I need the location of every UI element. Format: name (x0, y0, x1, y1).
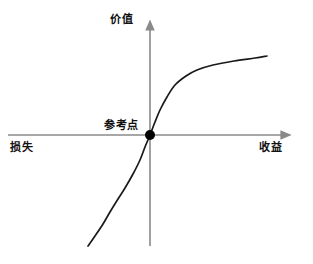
value-function-figure: 价值 损失 收益 参考点 (0, 0, 313, 264)
reference-point-marker-group (145, 130, 155, 140)
x-axis-label-losses: 损失 (10, 142, 33, 153)
x-axis-label-gains: 收益 (259, 142, 282, 153)
reference-point-dot (145, 130, 155, 140)
value-curve-group (88, 56, 267, 246)
y-axis-label: 价值 (110, 14, 133, 25)
reference-point-label: 参考点 (104, 120, 139, 131)
prospect-theory-value-function-chart (0, 0, 313, 264)
value-function-curve (88, 56, 267, 246)
